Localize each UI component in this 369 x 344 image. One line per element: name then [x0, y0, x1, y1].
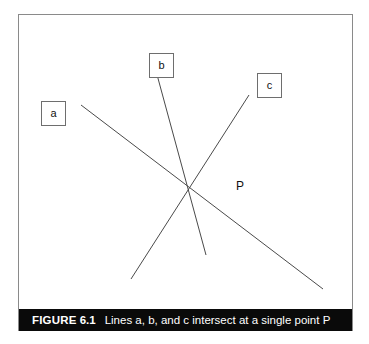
intersection-point-label: P: [236, 180, 244, 192]
figure-page: a b c P FIGURE6.1Lines a, b, and c inter…: [0, 0, 369, 344]
line-label-box-a: a: [41, 101, 66, 126]
line-label-box-c: c: [257, 73, 282, 98]
line-label-text-b: b: [158, 60, 164, 71]
figure-caption-bar: FIGURE6.1Lines a, b, and c intersect at …: [19, 309, 352, 331]
line-label-box-b: b: [149, 53, 174, 78]
line-c: [131, 95, 249, 279]
line-label-text-a: a: [50, 108, 56, 119]
intersecting-lines-svg: [19, 15, 354, 310]
line-a: [81, 105, 323, 289]
caption-text: Lines a, b, and c intersect at a single …: [105, 314, 331, 326]
caption-number: 6.1: [80, 314, 96, 326]
figure-caption-inner: FIGURE6.1Lines a, b, and c intersect at …: [19, 314, 330, 326]
figure-drawing-area: a b c P: [19, 15, 354, 310]
figure-frame: a b c P FIGURE6.1Lines a, b, and c inter…: [18, 14, 353, 331]
line-label-text-c: c: [267, 80, 273, 91]
caption-prefix: FIGURE: [32, 314, 77, 326]
